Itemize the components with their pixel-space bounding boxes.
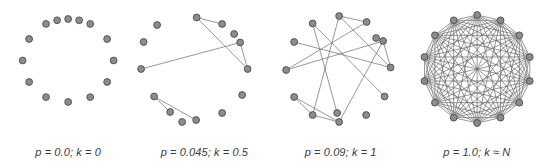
graph-node [104,79,111,86]
graph-node [54,17,61,24]
graph-node [335,13,342,20]
graph-node [363,19,370,26]
graph-node [497,114,504,121]
graph-node [431,99,438,106]
graph-node [219,21,226,28]
network-graph-svg-3 [409,0,545,142]
graph-node [87,94,94,101]
graph-node [19,57,26,64]
network-panel-2 [273,0,409,142]
graph-node [282,67,289,74]
graph-edge [500,20,529,81]
graph-node [193,14,200,21]
graph-edge [500,57,529,118]
graph-edges [286,16,391,122]
graph-node [372,35,379,42]
graph-node [237,39,244,46]
graph-edges [424,15,529,123]
graph-node [526,78,533,85]
graph-node [65,16,72,23]
network-graph-svg-2 [273,0,409,142]
graph-node [290,39,297,46]
graph-node [104,36,111,43]
graph-node [309,20,316,27]
graph-node [26,36,33,43]
network-figure: p = 0.0; k = 0 p = 0.045; k = 0.5 p = 0.… [0,0,545,168]
graph-node [76,17,83,24]
graph-node [26,79,33,86]
graph-nodes [282,13,393,126]
graph-node [179,119,186,126]
graph-node [309,112,316,119]
panel-caption-3: p = 1.0; k ≈ N [409,142,545,168]
network-captions-row: p = 0.0; k = 0 p = 0.045; k = 0.5 p = 0.… [0,142,545,168]
graph-node [450,114,457,121]
network-panels-row [0,0,545,142]
graph-node [431,32,438,39]
graph-node [219,110,226,117]
graph-node [43,21,50,28]
panel-caption-1: p = 0.045; k = 0.5 [136,142,272,168]
graph-nodes [138,14,251,125]
graph-node [516,32,523,39]
graph-node [379,38,386,45]
graph-node [333,110,340,117]
graph-node [526,54,533,61]
network-panel-1 [136,0,272,142]
graph-edge [424,57,519,103]
graph-node [497,17,504,24]
graph-node [154,22,161,29]
graph-node [450,17,457,24]
graph-edge [294,42,391,68]
graph-nodes [19,16,117,106]
graph-edge [435,35,530,81]
graph-node [335,119,342,126]
graph-node [138,66,145,73]
network-graph-svg-0 [0,0,136,142]
graph-node [43,94,50,101]
graph-node [244,66,251,73]
graph-edge [312,16,339,115]
graph-node [65,99,72,106]
graph-edge [154,97,196,121]
graph-node [473,12,480,19]
graph-node [473,120,480,127]
graph-node [387,64,394,71]
graph-node [421,54,428,61]
graph-edge [424,57,453,118]
graph-node [140,39,147,46]
graph-edge [424,20,453,81]
graph-node [87,21,94,28]
graph-node [239,92,246,99]
graph-node [381,93,388,100]
graph-node [193,117,200,124]
graph-node [362,112,369,119]
graph-edge [197,18,223,25]
graph-edge [339,16,367,22]
graph-node [151,93,158,100]
graph-edge [312,24,384,97]
graph-node [167,109,174,116]
network-panel-0 [0,0,136,142]
network-graph-svg-1 [136,0,272,142]
network-panel-3 [409,0,545,142]
graph-node [110,57,117,64]
graph-node [231,31,238,38]
graph-node [516,99,523,106]
graph-node [421,78,428,85]
panel-caption-2: p = 0.09; k = 1 [273,142,409,168]
panel-caption-0: p = 0.0; k = 0 [0,142,136,168]
graph-edge [141,43,240,70]
graph-node [290,94,297,101]
